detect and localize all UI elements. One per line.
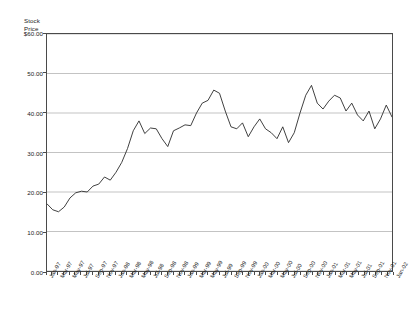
x-tick-mark [173, 272, 174, 275]
x-tick-mark [219, 272, 220, 275]
x-tick-mark [393, 272, 394, 275]
x-tick-mark [381, 272, 382, 275]
x-tick-mark [69, 272, 70, 275]
x-tick-mark [300, 272, 301, 275]
x-tick-mark [196, 272, 197, 275]
x-axis-tick-labels: Jan-97Mar-97May-97Jul-97Sep-97Nov-97Jan-… [0, 0, 412, 311]
x-tick-mark [80, 272, 81, 275]
x-tick-label: Jul-98 [152, 263, 165, 279]
x-tick-mark [277, 272, 278, 275]
x-tick-mark [288, 272, 289, 275]
x-tick-mark [358, 272, 359, 275]
x-tick-mark [92, 272, 93, 275]
x-tick-mark [46, 272, 47, 275]
x-tick-label: Jul-00 [290, 263, 303, 279]
x-tick-mark [138, 272, 139, 275]
x-tick-mark [323, 272, 324, 275]
x-tick-mark [161, 272, 162, 275]
x-tick-mark [369, 272, 370, 275]
x-tick-mark [184, 272, 185, 275]
x-tick-mark [115, 272, 116, 275]
x-tick-mark [265, 272, 266, 275]
x-tick-label: Jul-99 [221, 263, 234, 279]
x-tick-label: Jul-01 [360, 263, 373, 279]
x-tick-mark [231, 272, 232, 275]
x-tick-mark [335, 272, 336, 275]
x-tick-mark [103, 272, 104, 275]
x-tick-mark [346, 272, 347, 275]
x-tick-mark [150, 272, 151, 275]
x-tick-mark [312, 272, 313, 275]
x-tick-mark [254, 272, 255, 275]
x-tick-mark [57, 272, 58, 275]
stock-price-chart: Stock Price $60.0050.0040.0030.0020.0010… [0, 0, 412, 311]
x-tick-mark [242, 272, 243, 275]
